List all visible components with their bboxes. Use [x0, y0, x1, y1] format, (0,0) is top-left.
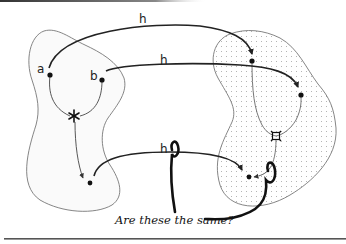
diagram-canvas: a b h h h Are these the same?	[0, 0, 346, 244]
point-a	[47, 72, 52, 77]
point-b	[99, 77, 104, 82]
label-h-a: h	[139, 12, 147, 26]
left-region	[27, 30, 125, 211]
point-h-b	[298, 92, 303, 97]
question-caption: Are these the same?	[114, 213, 234, 227]
top-rule	[0, 0, 346, 2]
label-b: b	[90, 69, 98, 83]
bottom-rule	[4, 238, 346, 240]
point-h-a	[249, 58, 254, 63]
point-c	[88, 181, 93, 186]
label-h-c: h	[160, 142, 168, 156]
point-h-c	[247, 175, 252, 180]
label-h-b: h	[160, 53, 168, 67]
label-a: a	[37, 62, 44, 76]
